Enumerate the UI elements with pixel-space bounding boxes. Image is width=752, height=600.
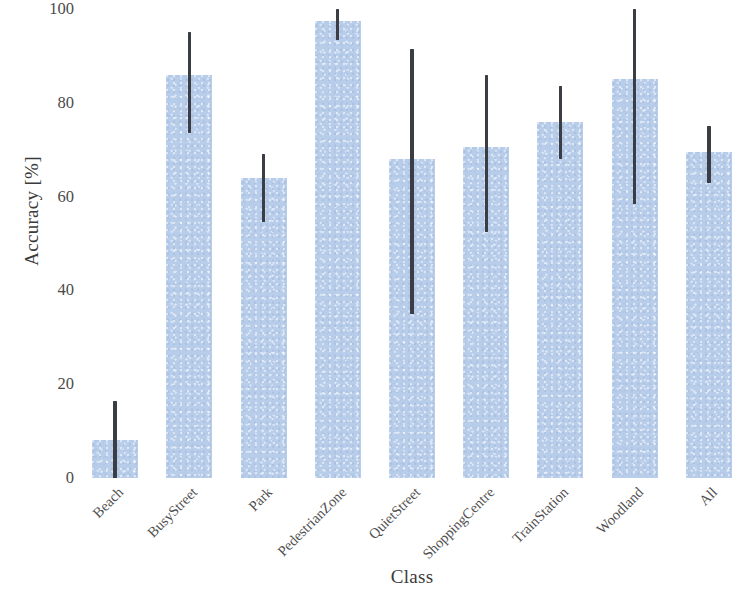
bar [686,152,732,478]
bar-group [166,9,212,478]
y-tick-label: 100 [30,0,74,19]
bar-chart-figure: 0 20 40 60 80 100 Accuracy [%] BeachBusy… [0,0,752,600]
x-tick-text: BusyStreet [144,484,201,541]
x-tick-text: ShoppingCentre [420,484,499,563]
bar-group [241,9,287,478]
error-bar [410,49,413,314]
bar-group [537,9,583,478]
y-tick-label: 20 [30,374,74,394]
bar-group [315,9,361,478]
error-bar [485,75,488,232]
error-bar [559,86,562,159]
x-tick-text: Park [245,484,276,515]
x-tick-text: QuietStreet [365,484,424,543]
y-axis-title: Accuracy [%] [21,91,43,331]
y-tick-label: 0 [30,468,74,488]
error-bar [707,126,710,182]
x-tick-text: All [696,484,721,509]
x-axis-title: Class [78,566,746,588]
bar [537,122,583,478]
bar-group [612,9,658,478]
error-bar [262,154,265,222]
bar [241,178,287,478]
bar-group [389,9,435,478]
bar-group [686,9,732,478]
error-bar [188,32,191,133]
bar-group [463,9,509,478]
bar [166,75,212,478]
x-tick-text: PedestrianZone [274,484,350,560]
x-tick-text: Woodland [593,484,647,538]
x-tick-text: Beach [90,484,128,522]
error-bar [113,401,116,478]
error-bar [633,9,636,204]
error-bar [336,9,339,39]
bar-group [92,9,138,478]
plot-area [78,9,746,478]
x-tick-text: TrainStation [510,484,573,547]
bar [315,21,361,478]
